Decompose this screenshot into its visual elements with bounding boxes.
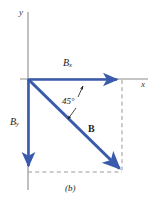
angle-leader-lower [68,108,76,119]
bx-vector-label: Bx [63,58,72,69]
b-vector-label: B [88,124,95,134]
figure-caption: (b) [65,184,76,193]
by-vector-label: By [10,117,19,128]
vector-diagram-figure: y x Bx By B 45° (b) [0,0,160,205]
y-axis-label: y [19,8,23,17]
angle-leader-upper [78,86,83,97]
bx-subscript: x [69,61,72,68]
vector-diagram-canvas [0,0,160,205]
vector-b-resultant [29,80,120,169]
by-subscript: y [16,120,19,127]
x-axis-label: x [141,80,145,89]
angle-label: 45° [62,97,75,106]
